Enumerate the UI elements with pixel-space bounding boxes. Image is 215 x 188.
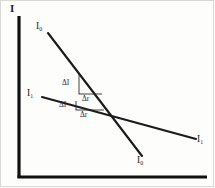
curve-label-i0-bottom-sub: 0 — [140, 160, 143, 166]
y-axis-label-text: I — [10, 2, 14, 14]
curve-label-i1-left: I1 — [27, 89, 33, 99]
delta-i-lower-label: ΔI — [59, 101, 66, 109]
figure-container: I I0 I0 I1 I1 ΔI Δr ΔI Δr — [0, 0, 215, 188]
delta-r-lower-label: Δr — [80, 111, 87, 119]
delta-i-upper-label: ΔI — [62, 79, 69, 87]
curve-label-i1-right: I1 — [197, 135, 203, 145]
curve-label-i1-left-sub: 1 — [30, 93, 33, 99]
curve-label-i0-top-sub: 0 — [39, 26, 42, 32]
curve-i0 — [48, 33, 142, 156]
curve-label-i0-bottom: I0 — [137, 156, 143, 166]
delta-r-upper-label: Δr — [82, 95, 89, 103]
curve-label-i1-right-sub: 1 — [200, 139, 203, 145]
curve-label-i0-top: I0 — [36, 22, 42, 32]
y-axis-label: I — [10, 3, 14, 14]
